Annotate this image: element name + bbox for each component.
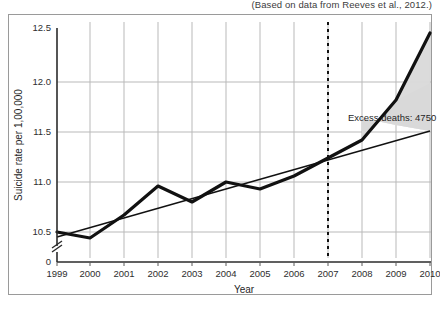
x-tick-label: 2004: [215, 268, 236, 279]
x-tick-label: 1999: [46, 268, 67, 279]
x-tick-label: 2003: [181, 268, 202, 279]
y-tick-label: 0: [46, 256, 51, 267]
observed-rate-line: [57, 33, 430, 238]
y-tick-label: 11.0: [33, 176, 51, 187]
y-gridlines: [57, 82, 431, 232]
y-tick-label: 12.5: [33, 22, 52, 33]
excess-deaths-label: Excess deaths: 4750: [348, 112, 436, 123]
x-tick-label: 2008: [351, 268, 372, 279]
y-tick-labels: 12.5 12.0 11.5 11.0 10.5 0: [33, 22, 52, 267]
y-tick-label: 12.0: [33, 76, 52, 87]
y-tick-label: 10.5: [33, 226, 52, 237]
x-tick-label: 2006: [283, 268, 304, 279]
x-tick-label: 2000: [79, 268, 100, 279]
x-tick-label: 2007: [317, 268, 338, 279]
y-tick-label: 11.5: [33, 126, 51, 137]
x-tick-label: 2009: [385, 268, 406, 279]
figure-container: (Based on data from Reeves et al., 2012.…: [0, 0, 440, 309]
x-tick-label: 2005: [249, 268, 270, 279]
x-tick-label: 2001: [113, 268, 134, 279]
y-axis-title: Suicide rate per 1,00,000: [13, 89, 24, 201]
x-tick-labels: 1999 2000 2001 2002 2003 2004 2005 2006 …: [46, 268, 440, 279]
x-tick-label: 2002: [147, 268, 168, 279]
x-gridlines: [90, 22, 430, 258]
line-chart: 12.5 12.0 11.5 11.0 10.5 0 1999 2000 200…: [0, 0, 440, 309]
x-axis-title: Year: [234, 284, 255, 295]
x-tick-label: 2010: [419, 268, 440, 279]
